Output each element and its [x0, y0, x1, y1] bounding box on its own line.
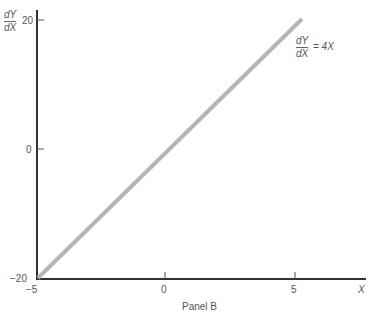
y-tick-label-20: 20 [22, 16, 33, 26]
panel-caption: Panel B [182, 302, 217, 312]
series-line [38, 19, 302, 278]
equation-rhs: = 4X [313, 42, 334, 52]
x-axis-label: X [358, 285, 365, 295]
x-tick-label-0: 0 [161, 285, 167, 295]
x-tick-label-5: 5 [291, 285, 297, 295]
equation-numerator: dY [296, 36, 308, 46]
y-tick-label-neg20: −20 [10, 274, 27, 284]
x-tick-label-neg5: −5 [26, 285, 37, 295]
y-axis-label: dY dX [4, 10, 16, 33]
equation-fraction: dY dX [296, 36, 308, 59]
y-label-denominator: dX [4, 23, 16, 33]
y-label-numerator: dY [4, 10, 16, 20]
y-tick-label-0: 0 [26, 145, 32, 155]
equation-denominator: dX [296, 49, 308, 59]
